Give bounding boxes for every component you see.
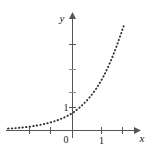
- exponential-curve: [8, 25, 124, 129]
- y-tick-one-label: 1: [64, 102, 69, 113]
- y-axis-label: y: [59, 12, 65, 24]
- plot-canvas: y x 0 1 1: [0, 0, 155, 161]
- exponential-function-graph: y x 0 1 1: [0, 0, 155, 161]
- origin-label: 0: [64, 134, 69, 145]
- y-axis-arrowhead: [69, 12, 76, 19]
- x-axis-label: x: [139, 132, 145, 144]
- x-tick-one-label: 1: [99, 135, 104, 146]
